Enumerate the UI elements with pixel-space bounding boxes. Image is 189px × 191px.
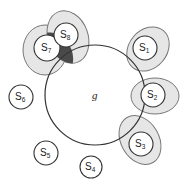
subset-s4: S4 <box>80 156 102 178</box>
subset-s2: S2 <box>141 83 165 107</box>
subset-s1: S1 <box>133 36 157 60</box>
subset-s8: S8 <box>54 23 78 47</box>
set-diagram: g S1 S2 S3 S4 S5 S6 S7 S8 <box>0 0 189 191</box>
main-set-label: g <box>92 89 98 101</box>
subset-s5: S5 <box>34 141 58 165</box>
subset-s6: S6 <box>9 85 33 109</box>
subset-s3: S3 <box>129 132 153 156</box>
